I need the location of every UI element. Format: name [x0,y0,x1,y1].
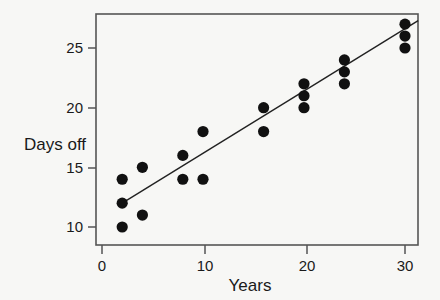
y-tick-label-10: 10 [66,218,83,235]
y-axis-title: Days off [24,135,86,154]
data-point [258,102,269,113]
data-point [339,78,350,89]
data-point [399,42,410,53]
data-point [298,102,309,113]
data-point [399,19,410,30]
y-tick-label-15: 15 [66,159,83,176]
chart-canvas: 25 20 15 10 0 10 20 30 Days off Years [0,0,440,300]
data-point [117,198,128,209]
data-point [197,126,208,137]
y-tick-label-20: 20 [66,99,83,116]
data-point [339,66,350,77]
data-point [177,174,188,185]
x-tick-label-30: 30 [397,257,414,274]
data-point [137,209,148,220]
data-point [117,221,128,232]
x-tick-label-10: 10 [197,257,214,274]
data-point [137,162,148,173]
data-point [197,174,208,185]
data-point [117,174,128,185]
data-point [298,90,309,101]
x-tick-label-20: 20 [299,257,316,274]
data-point [339,54,350,65]
data-point [399,30,410,41]
x-axis-title: Years [229,276,272,295]
y-tick-label-25: 25 [66,39,83,56]
data-point [298,78,309,89]
data-point [177,150,188,161]
x-tick-label-0: 0 [98,257,106,274]
scatter-plot-figure: 25 20 15 10 0 10 20 30 Days off Years [0,0,440,300]
data-point [258,126,269,137]
